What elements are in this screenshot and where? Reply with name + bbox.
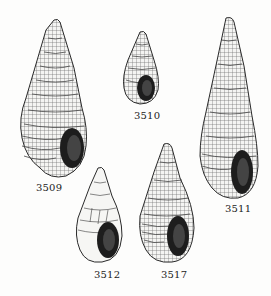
shell-3510-illustration (120, 30, 162, 106)
specimen-label-3517: 3517 (161, 269, 187, 280)
shell-3509-illustration (16, 18, 96, 180)
shell-3512-illustration (72, 166, 126, 266)
specimen-label-3510: 3510 (134, 110, 160, 121)
specimen-label-3512: 3512 (94, 269, 120, 280)
illustration-plate: 3509 3510 3511 (0, 0, 271, 296)
specimen-label-3509: 3509 (36, 182, 62, 193)
specimen-label-3511: 3511 (225, 203, 251, 214)
shell-3511-illustration (196, 16, 264, 202)
shell-3517-illustration (136, 142, 198, 266)
